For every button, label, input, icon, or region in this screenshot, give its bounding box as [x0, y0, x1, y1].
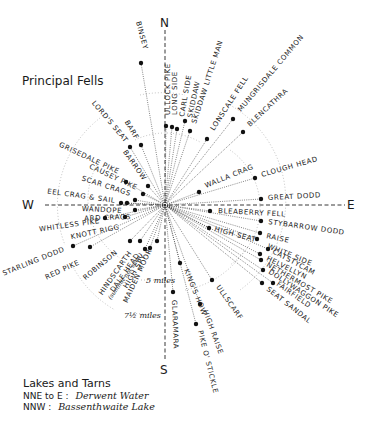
legend-direction-2: NNW :: [23, 402, 51, 412]
fell-dot-starling-dodd: [71, 244, 75, 248]
fell-label-bleaberry-fell: BLEABERRY FELL: [218, 207, 286, 219]
fell-label-grisedale-pike: GRISEDALE PIKE: [58, 141, 121, 176]
compass-south: S: [160, 363, 168, 377]
fell-dot-walla-crag: [197, 190, 201, 194]
fell-label-clough-head: CLOUGH HEAD: [260, 155, 318, 179]
fell-dot-hindscarth: [138, 239, 142, 243]
fell-label-long-side: LONG SIDE: [171, 71, 179, 115]
fell-dot-fairfield: [271, 281, 275, 285]
fell-dot-causey-pike: [141, 192, 145, 196]
legend-title: Lakes and Tarns: [23, 377, 111, 390]
ray-dale-head: [145, 205, 165, 249]
fell-dot-nethermost-pike: [259, 258, 263, 262]
fell-dot-wandope: [125, 201, 129, 205]
compass-east: E: [347, 198, 355, 212]
fell-label-glaramara: GLARAMARA: [170, 300, 180, 349]
ray-lonscale-fell: [165, 139, 207, 205]
ray-great-dodd: [165, 199, 261, 205]
legend-line-2: NNW : Bassenthwaite Lake: [23, 401, 155, 412]
fell-dot-bleaberry-fell: [208, 209, 212, 213]
fell-dot-dollywaggon-pike: [261, 268, 265, 272]
fell-dot-high-seat: [207, 226, 211, 230]
fell-dot-glaramara: [171, 290, 175, 294]
ring-inner-north: [135, 133, 200, 142]
fell-dot-blencathra: [241, 130, 245, 134]
fell-label-high-seat: HIGH SEAT: [213, 225, 257, 244]
fell-dot-skiddaw-little-man: [188, 129, 192, 133]
fell-dot-carl-side: [175, 127, 179, 131]
legend-line-1: NNE to E : Derwent Water: [23, 390, 150, 401]
fell-dot-ard-crags: [133, 208, 137, 212]
fell-dot-helvellyn: [258, 252, 262, 256]
fell-dot-eel-crag-sail: [119, 201, 123, 205]
ring-label-5-miles: 5 miles: [146, 276, 175, 285]
fell-dot-ullscarf: [210, 278, 214, 282]
compass-west: W: [22, 198, 34, 212]
fell-label-great-dodd: GREAT DODD: [268, 191, 321, 202]
fell-label-red-pike: RED PIKE: [44, 259, 81, 282]
fell-dot-barrow: [146, 184, 150, 188]
fell-dot-red-pike: [88, 245, 92, 249]
ray-carl-side: [165, 129, 177, 205]
fell-dot-robinson: [128, 239, 132, 243]
fell-dot-king-s-how: [178, 261, 182, 265]
fell-dot-long-side: [170, 125, 174, 129]
fell-dot-maiden-moor: [155, 239, 159, 243]
ring-label-7-miles: 7½ miles: [124, 311, 161, 320]
legend-direction-1: NNE to E :: [23, 391, 69, 401]
fell-dot-seat-sandal: [260, 281, 264, 285]
fell-dot-skiddaw: [183, 119, 187, 123]
legend: Lakes and Tarns NNE to E : Derwent Water…: [23, 377, 155, 412]
fell-dot-mungrisdale-common: [231, 117, 235, 121]
fell-dot-binsey: [139, 61, 143, 65]
ray-seat-sandal: [165, 205, 262, 283]
legend-lake-1: Derwent Water: [74, 390, 150, 401]
fell-dot-scar-crags: [133, 198, 137, 202]
fell-label-ullscarf: ULLSCARF: [214, 284, 244, 322]
ray-skiddaw-little-man: [165, 131, 190, 205]
fell-label-king-s-how: KING'S HOW: [182, 268, 208, 317]
fell-dot-clough-head: [253, 176, 257, 180]
fell-dot-raise: [258, 231, 262, 235]
fell-label-barrow: BARROW: [121, 149, 148, 183]
fell-dot-stybarrow-dodd: [259, 219, 263, 223]
compass-north: N: [160, 16, 169, 30]
fell-dot-ullock-pike: [164, 124, 168, 128]
ray-knott-rigg: [125, 205, 165, 217]
page-title: Principal Fells: [22, 74, 104, 88]
fell-dot-barf: [139, 143, 143, 147]
fells-radial-diagram: BINSEYULLOCK PIKELONG SIDECARL SIDESKIDD…: [0, 0, 378, 443]
fell-label-binsey: BINSEY: [134, 20, 149, 50]
fell-dot-pike-o-stickle: [194, 322, 198, 326]
fell-dot-lonscale-fell: [205, 137, 209, 141]
ray-blencathra: [165, 132, 243, 205]
legend-lake-2: Bassenthwaite Lake: [57, 401, 155, 412]
fell-label-walla-crag: WALLA CRAG: [204, 163, 255, 190]
fell-dot-great-dodd: [259, 197, 263, 201]
